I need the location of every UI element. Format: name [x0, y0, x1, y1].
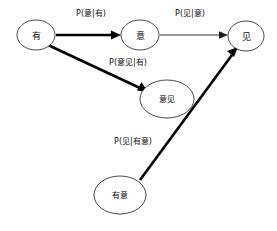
edge-label-you-to-yijian: P(意见|有): [109, 57, 147, 67]
edge-yi-to-jian: [160, 31, 228, 39]
node-yijian[interactable]: 意见: [140, 80, 194, 118]
edge-label-youyi-to-jian: P(见|有意): [114, 136, 152, 146]
edge-label-you-to-yi: P(意|有): [76, 8, 106, 18]
node-youyi-label: 有意: [112, 190, 128, 200]
edge-you-to-yijian: [48, 45, 148, 92]
node-yijian-label: 意见: [159, 94, 175, 104]
edge-you-to-yi: [56, 31, 121, 40]
node-jian[interactable]: 见: [228, 21, 264, 51]
node-yi[interactable]: 意: [121, 20, 159, 50]
node-you-label: 有: [32, 30, 41, 41]
node-you[interactable]: 有: [17, 20, 55, 50]
edge-youyi-to-jian-line: [140, 55, 232, 180]
edge-label-yi-to-jian: P(见|意): [175, 8, 205, 18]
diagram-canvas: 有 意 见 意见 有意 P(意|有) P(见|意) P(意见|有) P(见|有意…: [0, 0, 277, 231]
node-youyi[interactable]: 有意: [94, 176, 146, 214]
edge-yi-to-jian-arrowhead: [219, 31, 228, 39]
edge-you-to-yijian-line: [48, 45, 140, 88]
probability-graph-diagram: 有 意 见 意见 有意 P(意|有) P(见|意) P(意见|有) P(见|有意…: [0, 0, 277, 231]
node-yi-label: 意: [136, 30, 145, 41]
node-jian-label: 见: [242, 32, 251, 42]
edge-you-to-yi-arrowhead: [111, 31, 121, 40]
